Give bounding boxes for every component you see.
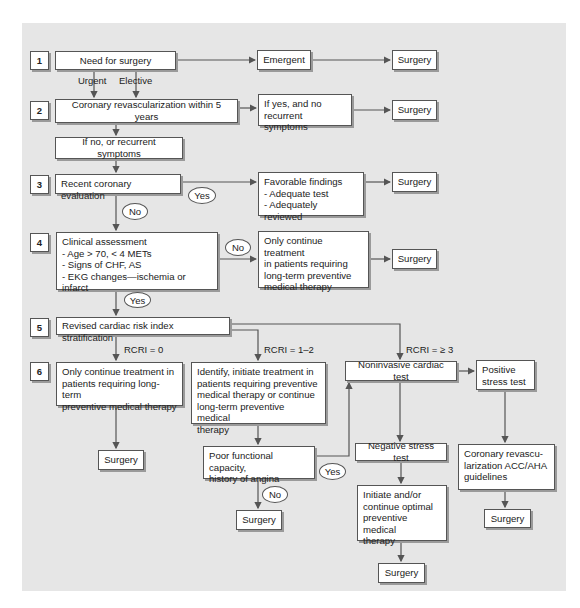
- node-only-continue-4: Only continue treatment in patients requ…: [258, 231, 369, 288]
- node-surgery-6a: Surgery: [98, 450, 144, 470]
- label-no-poor: No: [262, 486, 288, 503]
- label-yes-clinical: Yes: [124, 292, 151, 308]
- node-surgery-1: Surgery: [392, 50, 437, 70]
- label-yes-recent: Yes: [188, 187, 216, 204]
- label-yes-poor: Yes: [319, 463, 346, 480]
- node-surgery-6b: Surgery: [484, 509, 531, 528]
- node-surgery-4: Surgery: [392, 249, 437, 269]
- node-initiate-optimal: Initiate and/or continue optimal prevent…: [357, 485, 447, 541]
- node-if-yes-no-symptoms: If yes, and no recurrent symptoms: [258, 94, 352, 126]
- node-identify-initiate: Identify, initiate treatment in patients…: [191, 362, 326, 424]
- node-coronary-revasc-guidelines: Coronary revascu- larization ACC/AHA gui…: [458, 444, 555, 490]
- label-urgent: Urgent: [78, 75, 107, 86]
- label-elective: Elective: [119, 75, 152, 86]
- label-no-clinical: No: [225, 239, 251, 256]
- node-revasc-5-years: Coronary revascularization within 5 year…: [55, 99, 238, 123]
- step-number-4: 4: [30, 233, 49, 252]
- step-number-5: 5: [30, 318, 49, 337]
- node-positive-stress-test: Positive stress test: [476, 360, 535, 390]
- label-no-recent: No: [122, 203, 148, 220]
- node-negative-stress-test: Negative stress test: [355, 443, 447, 461]
- node-noninvasive-test: Noninvasive cardiac test: [345, 361, 457, 381]
- node-recent-coronary-evaluation: Recent coronary evaluation: [55, 174, 181, 194]
- node-surgery-2: Surgery: [392, 100, 437, 120]
- node-surgery-6c: Surgery: [378, 563, 425, 583]
- label-rcri-0: RCRI = 0: [124, 344, 163, 355]
- node-rcri-stratification: Revised cardiac risk index stratificatio…: [56, 317, 230, 335]
- label-rcri-1-2: RCRI = 1–2: [264, 344, 314, 355]
- node-poor-functional-capacity: Poor functional capacity, history of ang…: [203, 446, 315, 479]
- node-emergent: Emergent: [257, 50, 311, 70]
- node-clinical-assessment: Clinical assessment - Age > 70, < 4 METs…: [56, 232, 218, 290]
- step-number-1: 1: [30, 51, 49, 70]
- node-surgery-6d: Surgery: [236, 510, 282, 530]
- label-rcri-3: RCRI = ≥ 3: [406, 344, 453, 355]
- node-need-for-surgery: Need for surgery: [55, 51, 176, 70]
- step-number-3: 3: [30, 175, 49, 194]
- node-only-continue-6: Only continue treatment in patients requ…: [56, 362, 183, 406]
- node-if-no-recurrent: If no, or recurrent symptoms: [55, 137, 183, 159]
- node-surgery-3: Surgery: [392, 172, 437, 192]
- step-number-2: 2: [30, 101, 49, 120]
- node-favorable-findings: Favorable findings - Adequate test - Ade…: [258, 172, 364, 216]
- step-number-6: 6: [30, 362, 49, 381]
